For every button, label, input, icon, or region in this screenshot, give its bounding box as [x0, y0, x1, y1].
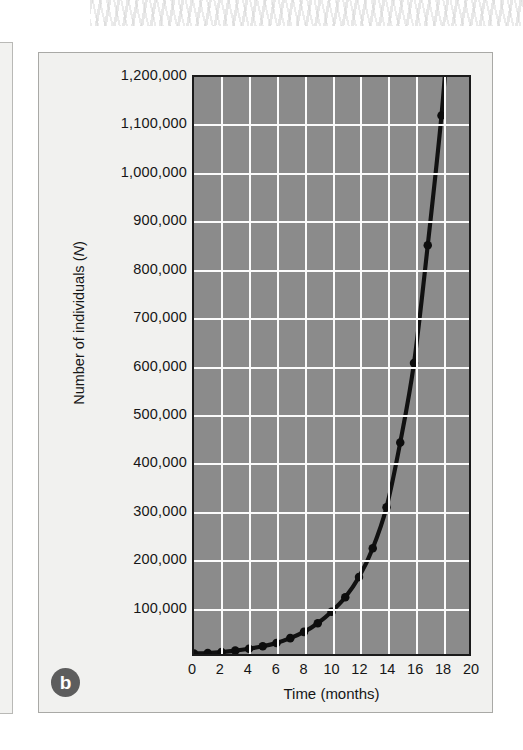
- figure-panel-a-sliver: [0, 42, 13, 714]
- y-axis-tick-label: 1,100,000: [121, 115, 187, 131]
- data-point-marker: [231, 646, 239, 654]
- y-axis-title: Number of individuals (N): [71, 163, 87, 483]
- gridline-vertical: [416, 77, 418, 654]
- figure-panel-b: 100,000200,000300,000400,000500,000600,0…: [38, 52, 493, 713]
- y-axis-tick-label: 100,000: [133, 600, 187, 616]
- y-axis-title-suffix: ): [71, 241, 87, 246]
- y-axis-tick-label: 300,000: [133, 503, 187, 519]
- gridline-horizontal: [194, 512, 469, 514]
- gridline-horizontal: [194, 124, 469, 126]
- y-axis-tick-label: 700,000: [133, 309, 187, 325]
- y-axis-tick-label: 200,000: [133, 551, 187, 567]
- panel-label-badge: b: [51, 668, 80, 697]
- data-point-marker: [286, 634, 294, 643]
- x-axis-tick-label: 16: [407, 661, 423, 677]
- plot-grid-and-curve: [194, 77, 469, 654]
- x-axis-tick-label: 20: [463, 661, 479, 677]
- y-axis-tick-label: 400,000: [133, 454, 187, 470]
- gridline-vertical: [444, 77, 446, 654]
- gridline-vertical: [305, 77, 307, 654]
- x-axis-title: Time (months): [192, 685, 471, 702]
- x-axis-tick-labels: 02468101214161820: [192, 661, 471, 683]
- y-axis-title-prefix: Number of individuals (: [71, 257, 87, 405]
- data-point-marker: [369, 544, 377, 553]
- gridline-vertical: [249, 77, 251, 654]
- x-axis-tick-label: 18: [435, 661, 451, 677]
- gridline-horizontal: [194, 318, 469, 320]
- gridline-horizontal: [194, 221, 469, 223]
- gridline-vertical: [277, 77, 279, 654]
- x-axis-tick-label: 4: [244, 661, 252, 677]
- x-axis-tick-label: 2: [216, 661, 224, 677]
- scan-texture-band: [90, 0, 523, 26]
- gridline-horizontal: [194, 415, 469, 417]
- plot-area: [192, 75, 471, 656]
- y-axis-title-symbol: N: [71, 246, 87, 256]
- data-point-marker: [194, 649, 198, 654]
- x-axis-tick-label: 8: [300, 661, 308, 677]
- x-axis-tick-label: 10: [323, 661, 339, 677]
- gridline-horizontal: [194, 609, 469, 611]
- data-point-marker: [204, 649, 212, 654]
- x-axis-tick-label: 6: [272, 661, 280, 677]
- gridline-horizontal: [194, 463, 469, 465]
- data-point-marker: [424, 241, 432, 250]
- y-axis-tick-label: 600,000: [133, 358, 187, 374]
- x-axis-tick-label: 14: [379, 661, 395, 677]
- y-axis-tick-labels: 100,000200,000300,000400,000500,000600,0…: [39, 75, 187, 656]
- data-point-marker: [314, 619, 322, 628]
- y-axis-tick-label: 900,000: [133, 212, 187, 228]
- data-point-marker: [396, 438, 404, 447]
- gridline-vertical: [221, 77, 223, 654]
- y-axis-tick-label: 1,200,000: [121, 67, 187, 83]
- y-axis-tick-label: 800,000: [133, 261, 187, 277]
- gridline-horizontal: [194, 560, 469, 562]
- gridline-horizontal: [194, 367, 469, 369]
- data-point-marker: [259, 642, 267, 651]
- gridline-vertical: [333, 77, 335, 654]
- data-point-marker: [341, 593, 349, 602]
- gridline-horizontal: [194, 270, 469, 272]
- gridline-horizontal: [194, 173, 469, 175]
- x-axis-tick-label: 12: [351, 661, 367, 677]
- gridline-vertical: [388, 77, 390, 654]
- y-axis-tick-label: 500,000: [133, 406, 187, 422]
- gridline-vertical: [360, 77, 362, 654]
- y-axis-tick-label: 1,000,000: [121, 164, 187, 180]
- population-growth-curve: [194, 77, 469, 654]
- x-axis-tick-label: 0: [188, 661, 196, 677]
